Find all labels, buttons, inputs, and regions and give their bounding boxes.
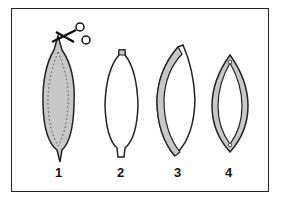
figure-2-shape [105,50,138,157]
step-label-4: 4 [225,165,232,180]
diagram-canvas [0,0,281,203]
figure-1-shape [43,36,74,162]
step-label-1: 1 [55,165,62,180]
figure-3-shape [157,45,195,156]
figure-4-shape [212,55,248,152]
step-label-3: 3 [174,165,181,180]
step-label-2: 2 [117,165,124,180]
